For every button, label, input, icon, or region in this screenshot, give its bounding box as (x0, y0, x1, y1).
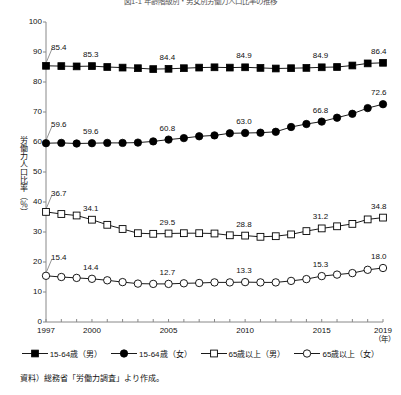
data-label: 72.6 (371, 89, 387, 97)
marker-filled-square (150, 66, 157, 73)
plot-area (46, 22, 383, 322)
data-label: 18.0 (371, 253, 387, 261)
marker-open-circle (165, 280, 172, 287)
y-axis-label: 労働力人口比率（％） (13, 118, 27, 234)
data-label: 13.3 (236, 267, 252, 275)
marker-open-square (380, 214, 387, 221)
marker-filled-circle (272, 128, 279, 135)
y-axis-tick: 100 (16, 18, 42, 26)
data-label: 86.4 (371, 48, 387, 56)
marker-open-circle (211, 279, 218, 286)
data-label: 31.2 (313, 213, 329, 221)
marker-open-square (364, 216, 371, 223)
marker-filled-circle (257, 129, 264, 136)
marker-open-square (180, 230, 187, 237)
marker-filled-square (364, 60, 371, 67)
marker-open-circle (333, 271, 340, 278)
marker-open-square (349, 221, 356, 228)
marker-filled-circle (88, 140, 95, 147)
legend-label: 15-64歳（女） (139, 348, 191, 359)
marker-open-circle (73, 274, 80, 281)
marker-filled-circle (287, 123, 294, 130)
data-label: 34.8 (371, 203, 387, 211)
marker-open-circle (58, 273, 65, 280)
legend-item-4[interactable]: 65歳以上（女） (294, 348, 379, 359)
chart-svg (46, 22, 383, 322)
data-label: 63.0 (236, 118, 252, 126)
marker-open-square (150, 230, 157, 237)
marker-open-square (334, 223, 341, 230)
marker-filled-square (288, 65, 295, 72)
marker-filled-circle (134, 139, 141, 146)
legend-label: 15-64歳（男） (50, 348, 102, 359)
data-label: 34.1 (83, 205, 99, 213)
marker-open-square (211, 230, 218, 237)
data-label: 12.7 (160, 269, 176, 277)
legend-label: 65歳以上（女） (322, 348, 379, 359)
data-label: 59.6 (51, 121, 67, 129)
data-label: 15.4 (51, 254, 67, 262)
marker-filled-square (135, 65, 142, 72)
data-label: 66.8 (313, 107, 329, 115)
x-axis-tick: 2019 (363, 327, 401, 335)
marker-filled-square (318, 64, 325, 71)
marker-open-circle (180, 280, 187, 287)
data-label: 14.4 (83, 264, 99, 272)
marker-open-square (318, 225, 325, 232)
marker-open-circle (226, 279, 233, 286)
marker-filled-circle (195, 133, 202, 140)
data-label: 84.9 (313, 52, 329, 60)
y-axis-tick: 60 (16, 138, 42, 146)
marker-filled-circle (180, 134, 187, 141)
y-axis-tick: 90 (16, 48, 42, 56)
chart-legend: 15-64歳（男）15-64歳（女）65歳以上（男）65歳以上（女） (0, 348, 401, 359)
marker-open-circle (119, 278, 126, 285)
data-label: 15.3 (313, 261, 329, 269)
marker-filled-circle (364, 104, 371, 111)
y-axis-tick: 80 (16, 78, 42, 86)
marker-open-circle (257, 279, 264, 286)
data-label: 60.8 (160, 125, 176, 133)
y-axis-tick: 40 (16, 198, 42, 206)
marker-filled-circle (333, 114, 340, 121)
marker-filled-circle (318, 118, 325, 125)
x-axis-tick: 2005 (149, 327, 189, 335)
marker-open-circle (349, 269, 356, 276)
marker-filled-circle (104, 139, 111, 146)
marker-filled-circle (42, 140, 49, 147)
legend-item-3[interactable]: 65歳以上（男） (201, 348, 286, 359)
series-3 (43, 209, 387, 241)
marker-open-square (257, 233, 264, 240)
marker-open-square (135, 230, 142, 237)
data-label: 59.6 (83, 128, 99, 136)
data-label: 84.9 (236, 52, 252, 60)
legend-marker-filled-square (22, 348, 48, 359)
marker-open-square (272, 233, 279, 240)
marker-open-circle (134, 280, 141, 287)
marker-open-square (165, 230, 172, 237)
marker-filled-square (242, 64, 249, 71)
marker-filled-circle (303, 120, 310, 127)
marker-open-square (89, 216, 96, 223)
marker-filled-square (272, 65, 279, 72)
marker-filled-square (119, 64, 126, 71)
legend-marker-open-square (201, 348, 227, 359)
marker-filled-circle (150, 138, 157, 145)
marker-filled-square (43, 62, 50, 69)
marker-open-circle (88, 275, 95, 282)
marker-open-square (288, 231, 295, 238)
marker-filled-square (380, 59, 387, 66)
legend-marker-open-circle (294, 348, 320, 359)
x-axis-unit-label: （年） (374, 336, 395, 344)
series-2 (42, 101, 386, 148)
marker-filled-square (165, 65, 172, 72)
marker-open-circle (303, 275, 310, 282)
marker-open-circle (318, 272, 325, 279)
legend-item-1[interactable]: 15-64歳（男） (22, 348, 102, 359)
marker-filled-circle (226, 130, 233, 137)
data-label: 29.5 (160, 219, 176, 227)
data-label: 28.8 (236, 221, 252, 229)
legend-item-2[interactable]: 15-64歳（女） (111, 348, 191, 359)
marker-open-circle (287, 277, 294, 284)
marker-open-circle (150, 280, 157, 287)
